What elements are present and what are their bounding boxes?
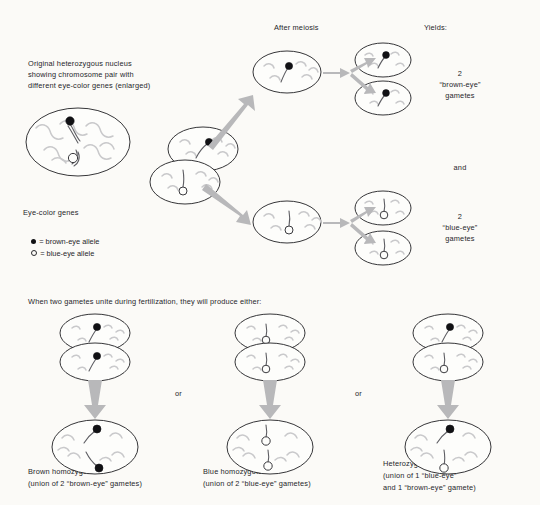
after-meiosis-brown-cell <box>253 51 321 93</box>
fusion-group-heterozygote <box>405 314 491 474</box>
fusion-arrow-brown <box>84 380 106 419</box>
after-meiosis-blue-cell <box>253 201 321 243</box>
brown-gamete-cell-1 <box>355 43 411 77</box>
arrow-to-blue-meiosis-cell <box>202 184 251 225</box>
fusion-group-brown-homozygote <box>52 314 138 474</box>
dividing-cell-stage <box>150 127 238 204</box>
arrow-brown-split <box>323 68 350 78</box>
fusion-arrow-heterozygote <box>437 380 459 419</box>
meiosis-inheritance-diagram: Original heterozygous nucleus showing ch… <box>0 0 540 505</box>
blue-gamete-cell-1 <box>355 191 411 225</box>
fusion-group-blue-homozygote <box>227 314 313 474</box>
arrow-blue-split <box>323 218 350 228</box>
fusion-arrow-blue <box>259 380 281 419</box>
original-nucleus <box>26 108 130 176</box>
diagram-graphics <box>0 0 540 505</box>
